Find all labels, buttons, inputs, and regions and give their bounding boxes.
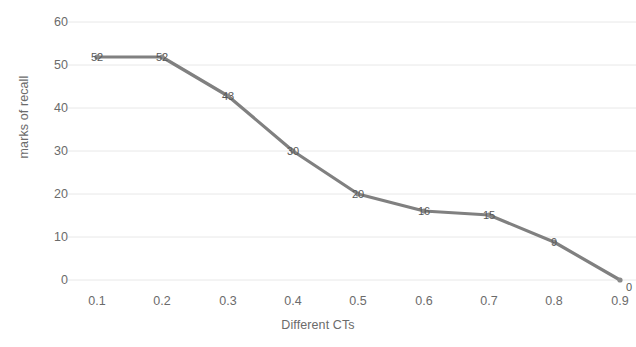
data-point-label: 20 [352, 188, 364, 200]
data-line [97, 57, 620, 280]
x-tick-label: 0.9 [597, 294, 636, 308]
x-tick-label: 0.3 [205, 294, 251, 308]
data-points [94, 54, 622, 282]
x-tick-label: 0.8 [531, 294, 577, 308]
line-chart: marks of recall 60 50 40 30 20 10 0 [0, 0, 636, 347]
x-axis-title: Different CTs [0, 318, 636, 332]
x-tick-label: 0.5 [335, 294, 381, 308]
x-tick-label: 0.2 [139, 294, 185, 308]
x-tick-label: 0.4 [270, 294, 316, 308]
data-point-label: 9 [551, 236, 557, 248]
data-point-label: 52 [91, 51, 103, 63]
data-point-label: 52 [156, 51, 168, 63]
data-point-label: 16 [418, 205, 430, 217]
x-tick-label: 0.7 [466, 294, 512, 308]
data-point-label: 43 [222, 90, 234, 102]
data-point-label: 15 [483, 209, 495, 221]
data-point-label: 0 [626, 281, 632, 293]
data-point-label: 30 [287, 145, 299, 157]
x-tick-label: 0.1 [74, 294, 120, 308]
x-tick-label: 0.6 [401, 294, 447, 308]
